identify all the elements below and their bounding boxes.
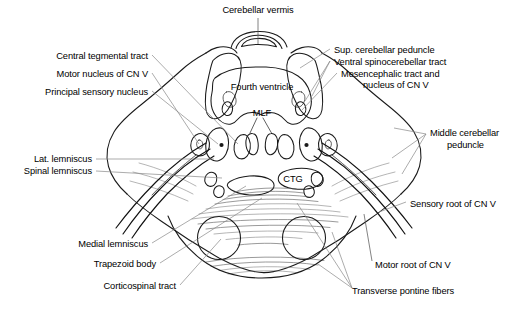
- callout-medial-lemniscus: Medial lemniscus: [48, 239, 148, 250]
- callout-motor-nucleus-cn-v: Motor nucleus of CN V: [8, 69, 148, 80]
- callout-transverse-pontine-fibers: Transverse pontine fibers: [352, 286, 512, 297]
- corticospinal-tract-circles: [198, 217, 326, 260]
- callout-sensory-root-cn-v: Sensory root of CN V: [410, 199, 524, 210]
- callout-mesencephalic-tract-line2: nucleus of CN V: [363, 80, 513, 91]
- leader-motor-nucleus-cn-v: [152, 73, 199, 144]
- callout-cerebellar-vermis: Cerebellar vermis: [198, 5, 318, 16]
- leader-transverse-pontine-fibers: [318, 264, 352, 288]
- leader-middle-cerebellar-peduncle: [394, 128, 426, 134]
- leader-principal-sensory-nucleus: [152, 91, 218, 144]
- cerebellar-vermis-shape: [231, 31, 287, 48]
- callout-motor-root-cn-v: Motor root of CN V: [375, 260, 485, 271]
- label-fourth-ventricle: Fourth ventricle: [212, 82, 312, 93]
- leader-central-tegmental-tract: [152, 55, 238, 144]
- leader-spinal-lemniscus: [96, 171, 222, 178]
- callout-sup-cerebellar-peduncle: Sup. cerebellar peduncle: [334, 45, 514, 56]
- callout-principal-sensory-nucleus: Principal sensory nucleus: [3, 87, 148, 98]
- leader-sup-cerebellar-peduncle: [300, 49, 330, 68]
- callout-spinal-lemniscus: Spinal lemniscus: [4, 166, 92, 177]
- figure-canvas: Fourth ventricle MLF CTG Cerebellar verm…: [0, 0, 524, 311]
- callout-trapezoid-body: Trapezoid body: [66, 259, 156, 270]
- callout-middle-cerebellar-peduncle-line2: peduncle: [447, 140, 517, 151]
- label-mlf: MLF: [242, 108, 282, 119]
- callout-lat-lemniscus: Lat. lemniscus: [8, 154, 92, 165]
- leader-motor-root-cn-v: [364, 214, 372, 261]
- mlf-shapes: [246, 118, 278, 155]
- callout-mesencephalic-tract-line1: Mesencephalic tract and: [341, 69, 521, 80]
- transverse-pontine-fibers-hatching: [130, 163, 398, 274]
- label-ctg: CTG: [277, 174, 309, 185]
- callout-central-tegmental-tract: Central tegmental tract: [8, 51, 148, 62]
- callout-ventral-spinocerebellar-tract: Ventral spinocerebellar tract: [334, 57, 524, 68]
- callout-corticospinal-tract: Corticospinal tract: [76, 281, 176, 292]
- callout-middle-cerebellar-peduncle-line1: Middle cerebellar: [430, 128, 524, 139]
